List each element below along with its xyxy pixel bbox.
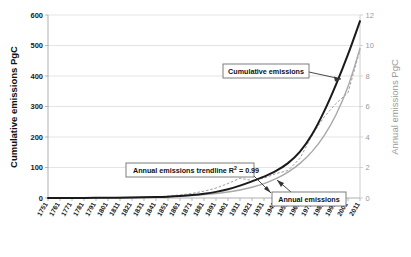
y-axis-right-tick-label: 12	[366, 11, 374, 20]
chart-svg: 0100200300400500600 024681012 1751176117…	[0, 0, 411, 257]
x-axis-tick-label: 1861	[167, 201, 181, 217]
x-axis-tick-label: 1891	[203, 201, 217, 217]
y-axis-right-tick-label: 10	[366, 41, 374, 50]
x-axis-tick-label: 1821	[119, 201, 133, 217]
callout-label-trendline-suffix: = 0.99	[237, 166, 259, 175]
y-axis-right-tick-label: 8	[366, 72, 370, 81]
x-axis-tick-label: 1881	[191, 201, 205, 217]
callout-label-trendline: Annual emissions trendline R2 = 0.99	[133, 165, 259, 175]
callout-label-cumulative: Cumulative emissions	[228, 67, 304, 76]
callout-label-annual: Annual emissions	[278, 195, 340, 204]
y-axis-left-tick-label: 200	[30, 133, 43, 142]
x-axis-tick-label: 2011	[348, 201, 361, 217]
x-axis-tick-label: 1771	[59, 201, 73, 217]
x-axis-tick-label: 1781	[71, 201, 85, 217]
x-axis-tick-label: 1751	[35, 201, 49, 217]
x-axis-tick-label: 1921	[239, 201, 253, 217]
x-axis-tick-label: 1901	[215, 201, 229, 217]
y-axis-right-tick-label: 2	[366, 163, 370, 172]
y-axis-right-tick-label: 4	[366, 133, 370, 142]
x-axis-tick-label: 1871	[179, 201, 193, 217]
x-axis-tick-label: 1831	[131, 201, 145, 217]
y-axis-left-tick-label: 300	[30, 102, 43, 111]
x-axis-tick-label: 1931	[251, 201, 265, 217]
y-axis-left-title: Cumulative emissions PgC	[8, 46, 19, 168]
x-axis-tick-label: 1851	[155, 201, 169, 217]
x-axis-tick-label: 1761	[47, 201, 61, 217]
callout-label-trendline-prefix: Annual emissions trendline R	[133, 166, 235, 175]
y-axis-right-ticks: 024681012	[360, 11, 374, 203]
y-axis-left-ticks: 0100200300400500600	[30, 11, 48, 203]
y-axis-left-tick-label: 600	[30, 11, 43, 20]
y-axis-right-title: Annual emissions PgC	[389, 59, 400, 155]
y-axis-right-tick-label: 0	[366, 194, 370, 203]
y-axis-left-tick-label: 100	[30, 163, 43, 172]
chart-figure: 0100200300400500600 024681012 1751176117…	[0, 0, 411, 257]
x-axis-tick-label: 1801	[95, 201, 109, 217]
y-axis-right-tick-label: 6	[366, 102, 370, 111]
x-axis-tick-label: 1841	[143, 201, 157, 217]
y-axis-left-tick-label: 500	[30, 41, 43, 50]
x-axis-tick-label: 1791	[83, 201, 97, 217]
y-axis-left-tick-label: 400	[30, 72, 43, 81]
